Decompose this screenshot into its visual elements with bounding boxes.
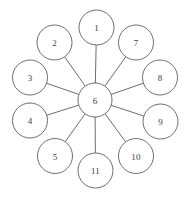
node-7[interactable]: 7 [119,25,154,60]
node-9[interactable]: 9 [143,104,178,139]
node-label-11: 11 [91,166,100,176]
node-6[interactable]: 6 [78,83,112,117]
node-label-9: 9 [158,117,163,127]
node-label-1: 1 [94,23,99,33]
edge-6-5 [65,114,85,142]
node-layer: 1234567891011 [13,10,179,188]
node-1[interactable]: 1 [79,10,114,45]
node-4[interactable]: 4 [13,103,48,138]
node-10[interactable]: 10 [119,139,154,174]
edge-6-3 [47,83,79,94]
node-label-2: 2 [52,38,57,48]
node-3[interactable]: 3 [13,60,48,95]
star-diagram-container: 1234567891011 [0,0,188,199]
node-11[interactable]: 11 [78,153,113,188]
node-5[interactable]: 5 [38,139,73,174]
edge-6-1 [95,45,96,83]
node-8[interactable]: 8 [143,60,178,95]
edge-6-8 [111,83,143,94]
edge-6-10 [105,114,126,142]
edge-6-7 [105,57,126,86]
node-label-10: 10 [131,152,141,162]
edge-6-4 [47,105,79,115]
node-label-3: 3 [28,73,33,83]
node-label-7: 7 [134,38,139,48]
edge-6-9 [111,105,144,116]
node-2[interactable]: 2 [37,25,72,60]
node-label-6: 6 [93,96,98,106]
node-label-8: 8 [158,73,163,83]
edge-6-2 [65,57,86,86]
star-graph-canvas: 1234567891011 [0,0,188,199]
node-label-4: 4 [28,116,33,126]
node-label-5: 5 [53,152,58,162]
